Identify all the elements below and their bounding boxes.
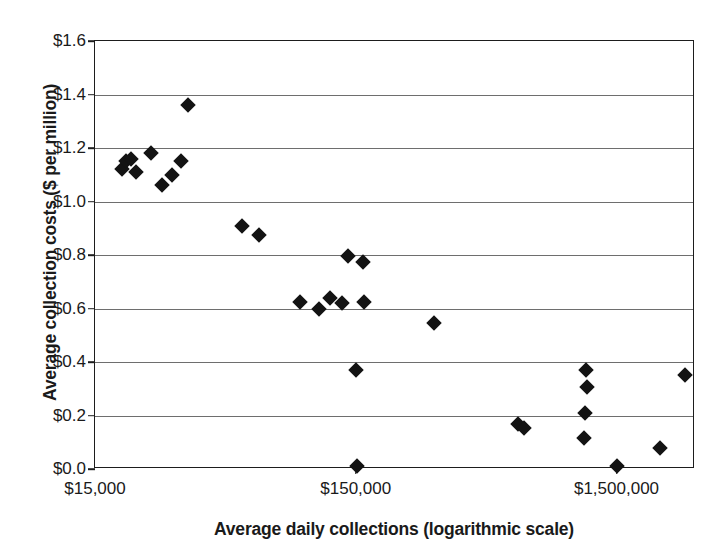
y-gridline: [95, 309, 693, 310]
data-point: [293, 294, 309, 310]
y-tick-label: $0.8: [53, 245, 86, 265]
data-point: [180, 97, 196, 113]
y-tick-label: $1.2: [53, 138, 86, 158]
data-point: [164, 167, 180, 183]
y-tick-mark: [88, 40, 95, 42]
y-tick-label: $0.6: [53, 299, 86, 319]
y-tick-label: $1.6: [53, 31, 86, 51]
scatter-chart-figure: Average collection costs ($ per million)…: [0, 0, 722, 557]
y-tick-mark: [88, 468, 95, 470]
plot-area: $0.0$0.2$0.4$0.6$0.8$1.0$1.2$1.4$1.6$15,…: [94, 40, 694, 468]
x-tick-label: $15,000: [64, 479, 125, 499]
data-point: [426, 315, 442, 331]
x-axis-title: Average daily collections (logarithmic s…: [94, 519, 694, 540]
y-tick-mark: [88, 201, 95, 203]
data-point: [609, 459, 625, 475]
data-point: [252, 227, 268, 243]
data-point: [677, 368, 693, 384]
y-tick-mark: [88, 361, 95, 363]
y-tick-mark: [88, 254, 95, 256]
y-tick-label: $0.2: [53, 406, 86, 426]
y-gridline: [95, 362, 693, 363]
data-point: [357, 294, 373, 310]
data-point: [355, 254, 371, 270]
data-point: [348, 362, 364, 378]
data-point: [580, 380, 596, 396]
data-point: [579, 362, 595, 378]
y-gridline: [95, 255, 693, 256]
y-tick-label: $1.0: [53, 192, 86, 212]
data-point: [234, 218, 250, 234]
data-point: [577, 430, 593, 446]
x-tick-label: $150,000: [320, 479, 391, 499]
y-tick-mark: [88, 147, 95, 149]
y-gridline: [95, 148, 693, 149]
y-gridline: [95, 416, 693, 417]
y-gridline: [95, 95, 693, 96]
x-tick-label: $1,500,000: [574, 479, 659, 499]
data-point: [311, 301, 327, 317]
y-tick-label: $0.4: [53, 352, 86, 372]
y-tick-mark: [88, 415, 95, 417]
y-tick-label: $0.0: [53, 459, 86, 479]
data-point: [154, 178, 170, 194]
data-point: [578, 405, 594, 421]
data-point: [652, 440, 668, 456]
data-point: [349, 459, 365, 475]
y-gridline: [95, 202, 693, 203]
y-tick-label: $1.4: [53, 85, 86, 105]
data-point: [340, 249, 356, 265]
y-tick-mark: [88, 308, 95, 310]
data-point: [173, 154, 189, 170]
y-tick-mark: [88, 94, 95, 96]
